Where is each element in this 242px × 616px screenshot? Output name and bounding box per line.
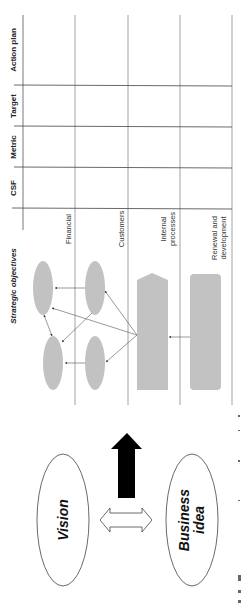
perspective-labels: Financial Customers Internal processes R…	[64, 211, 228, 260]
label-internal-line1: Internal	[159, 216, 168, 241]
label-financial: Financial	[64, 214, 73, 244]
arrow-customers1-to-financial2	[62, 313, 92, 342]
customers-objective-1	[85, 261, 105, 315]
strategic-objectives-title: Strategic objectives	[9, 248, 18, 324]
up-arrow-icon	[111, 433, 142, 498]
double-arrow-icon	[100, 508, 152, 532]
business-idea-label-line2: idea	[191, 506, 207, 534]
grid-line	[14, 126, 232, 127]
foundation: Vision Business idea	[37, 433, 218, 586]
objective-arrows	[44, 288, 190, 363]
internal-processes-block	[137, 273, 168, 390]
objective-shapes	[33, 261, 221, 390]
arrow-financial1-financial2	[44, 315, 52, 336]
column-headers: CSF Metric Target Action plan	[9, 28, 18, 196]
header-metric: Metric	[9, 135, 18, 159]
arrow-internal-to-customers2	[106, 335, 137, 362]
grid-line	[12, 208, 232, 209]
caption-fragment	[238, 415, 241, 603]
financial-objective-2	[43, 336, 63, 390]
renewal-development-block	[190, 274, 221, 390]
header-csf: CSF	[9, 180, 18, 196]
grid-line	[14, 85, 232, 86]
customers-objective-2	[85, 336, 105, 390]
vision-label: Vision	[55, 499, 71, 541]
business-idea-label-line1: Business	[176, 489, 192, 551]
label-customers: Customers	[117, 211, 126, 248]
label-renewal-line2: development	[219, 216, 228, 260]
arrow-internal-to-customers1	[105, 291, 137, 335]
grid-line	[14, 167, 232, 168]
label-internal-line2: processes	[168, 212, 177, 246]
header-action-plan: Action plan	[9, 28, 18, 72]
header-target: Target	[9, 94, 18, 118]
label-renewal-line1: Renewal and	[210, 216, 219, 260]
strategy-map-diagram: CSF Metric Target Action plan Strategic …	[0, 0, 242, 616]
financial-objective-1	[33, 261, 53, 315]
